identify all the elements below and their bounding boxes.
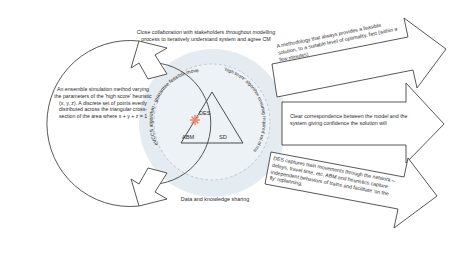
triangle-vertex-des: DES: [199, 110, 211, 116]
ensemble-simulation-text: An ensemble simulation method varying th…: [54, 86, 152, 120]
diagram-canvas: eVCCS algorithm - guarantee feasible mov…: [0, 0, 452, 255]
triangle-vertex-sd: SD: [219, 134, 227, 140]
stakeholder-collaboration-text: Close collaboration with stakeholders th…: [132, 29, 280, 43]
outcome-arrow-correspondence-text: Clear correspondence between the model a…: [290, 113, 418, 127]
data-knowledge-sharing-text: Data and knowledge sharing: [150, 196, 280, 203]
triangle-vertex-abm: ABM: [182, 134, 194, 140]
operating-point-marker: [191, 116, 200, 125]
